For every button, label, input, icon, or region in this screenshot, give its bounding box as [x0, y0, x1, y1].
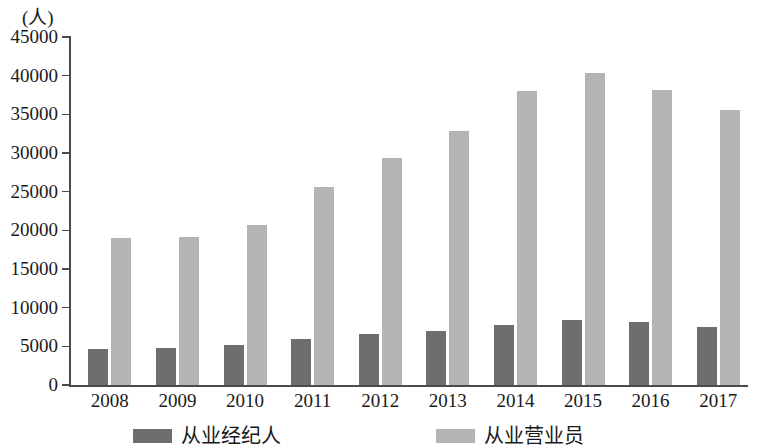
x-axis-label: 2009	[144, 390, 210, 412]
y-axis-tick-label-text: 35000	[0, 104, 58, 123]
y-axis-tick	[62, 384, 70, 386]
y-axis-tick-label-text: 25000	[0, 182, 58, 201]
y-axis-tick	[62, 191, 70, 193]
x-axis-label: 2008	[77, 390, 143, 412]
y-axis-tick-label-text: 0	[0, 375, 58, 394]
bar	[359, 334, 379, 385]
bar-chart: (人) 050001000015000200002500030000350004…	[0, 0, 758, 448]
bar	[629, 322, 649, 385]
legend-label-brokers: 从业经纪人	[181, 426, 281, 446]
y-axis-tick-label-text: 5000	[0, 336, 58, 355]
y-axis-tick	[62, 114, 70, 116]
bar-group	[154, 37, 201, 385]
y-axis-tick-label-text: 30000	[0, 143, 58, 162]
bar	[314, 187, 334, 385]
bar-group	[289, 37, 336, 385]
x-axis-label: 2017	[685, 390, 751, 412]
bar	[517, 91, 537, 385]
y-axis-tick-label: 35000	[0, 104, 58, 123]
bar-group	[424, 37, 471, 385]
bar-group	[560, 37, 607, 385]
x-axis-label: 2012	[347, 390, 413, 412]
bar	[585, 73, 605, 385]
y-axis-tick-label-text: 15000	[0, 259, 58, 278]
bar	[179, 237, 199, 385]
y-axis-tick-label: 20000	[0, 220, 58, 239]
bar	[697, 327, 717, 385]
y-axis-tick-label: 0	[0, 375, 58, 394]
bar-group	[627, 37, 674, 385]
x-axis-label: 2011	[280, 390, 346, 412]
bar	[88, 349, 108, 385]
bar	[426, 331, 446, 385]
legend-label-clerks: 从业营业员	[484, 426, 584, 446]
x-axis-label: 2015	[550, 390, 616, 412]
bar-group	[695, 37, 742, 385]
y-axis-tick-label: 25000	[0, 182, 58, 201]
bar	[156, 348, 176, 385]
y-axis-tick-label-text: 45000	[0, 27, 58, 46]
bar	[224, 345, 244, 385]
y-axis-unit-label: (人)	[22, 2, 54, 29]
bar-group	[357, 37, 404, 385]
legend-swatch-dark-icon	[133, 429, 172, 443]
y-axis-tick	[62, 268, 70, 270]
x-axis-label: 2010	[212, 390, 278, 412]
y-axis-tick-label: 5000	[0, 336, 58, 355]
y-axis-tick-label: 15000	[0, 259, 58, 278]
y-axis-tick	[62, 75, 70, 77]
legend-item-clerks: 从业营业员	[436, 424, 584, 448]
legend-item-brokers: 从业经纪人	[133, 424, 281, 448]
bar	[247, 225, 267, 385]
y-axis-tick-label: 40000	[0, 66, 58, 85]
y-axis-tick-label-text: 20000	[0, 220, 58, 239]
x-axis-label: 2016	[618, 390, 684, 412]
x-axis-line	[69, 385, 748, 387]
bar	[652, 90, 672, 385]
plot-area	[70, 37, 746, 385]
bar	[562, 320, 582, 385]
bar	[382, 158, 402, 385]
y-axis-tick-label: 45000	[0, 27, 58, 46]
bar	[291, 339, 311, 385]
legend-swatch-light-icon	[436, 429, 475, 443]
bar-group	[222, 37, 269, 385]
x-axis-label: 2014	[482, 390, 548, 412]
bar-group	[86, 37, 133, 385]
bar	[494, 325, 514, 385]
bar-group	[492, 37, 539, 385]
y-axis-tick	[62, 152, 70, 154]
y-axis-tick-label: 10000	[0, 298, 58, 317]
y-axis-tick-label: 30000	[0, 143, 58, 162]
bar	[111, 238, 131, 385]
y-axis-tick	[62, 230, 70, 232]
y-axis-tick	[62, 36, 70, 38]
y-axis-tick	[62, 307, 70, 309]
x-axis-label: 2013	[415, 390, 481, 412]
bar	[449, 131, 469, 385]
y-axis-tick-label-text: 40000	[0, 66, 58, 85]
chart-legend: 从业经纪人 从业营业员	[0, 424, 758, 448]
bar	[720, 110, 740, 385]
y-axis-tick-label-text: 10000	[0, 298, 58, 317]
y-axis-tick	[62, 346, 70, 348]
